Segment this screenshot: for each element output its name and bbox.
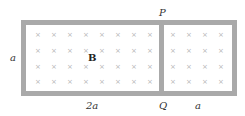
field-into-page-icon: × [50,48,58,55]
field-into-page-icon: × [130,32,138,39]
field-into-page-icon: × [146,64,154,71]
field-into-page-icon: × [201,79,209,86]
point-label-P: P [159,8,166,18]
field-into-page-icon: × [130,64,138,71]
sliding-rod-PQ [159,20,164,96]
field-into-page-icon: × [217,64,225,71]
field-into-page-icon: × [34,32,42,39]
field-into-page-icon: × [146,48,154,55]
field-into-page-icon: × [66,32,74,39]
field-label-B: B [88,53,96,63]
field-into-page-icon: × [114,64,122,71]
field-into-page-icon: × [185,64,193,71]
field-into-page-icon: × [66,48,74,55]
field-into-page-icon: × [114,32,122,39]
field-into-page-icon: × [98,64,106,71]
field-into-page-icon: × [66,64,74,71]
field-into-page-icon: × [98,48,106,55]
field-into-page-icon: × [98,32,106,39]
field-into-page-icon: × [50,79,58,86]
field-into-page-icon: × [114,79,122,86]
field-into-page-icon: × [82,79,90,86]
field-into-page-icon: × [169,64,177,71]
height-label-a: a [10,53,16,63]
field-into-page-icon: × [169,32,177,39]
field-into-page-icon: × [146,79,154,86]
field-into-page-icon: × [217,48,225,55]
width-label-2a: 2a [86,101,98,111]
field-into-page-icon: × [146,32,154,39]
field-into-page-icon: × [201,32,209,39]
field-into-page-icon: × [185,79,193,86]
field-into-page-icon: × [34,64,42,71]
field-into-page-icon: × [34,79,42,86]
field-into-page-icon: × [217,32,225,39]
field-into-page-icon: × [130,48,138,55]
field-into-page-icon: × [98,79,106,86]
field-into-page-icon: × [50,64,58,71]
width-label-a: a [195,101,201,111]
field-into-page-icon: × [185,32,193,39]
field-into-page-icon: × [169,79,177,86]
field-into-page-icon: × [201,64,209,71]
field-into-page-icon: × [50,32,58,39]
point-label-Q: Q [159,101,167,111]
field-into-page-icon: × [217,79,225,86]
field-into-page-icon: × [34,48,42,55]
field-into-page-icon: × [201,48,209,55]
field-into-page-icon: × [82,32,90,39]
field-into-page-icon: × [114,48,122,55]
field-into-page-icon: × [82,64,90,71]
field-into-page-icon: × [185,48,193,55]
field-into-page-icon: × [66,79,74,86]
field-into-page-icon: × [169,48,177,55]
field-into-page-icon: × [130,79,138,86]
